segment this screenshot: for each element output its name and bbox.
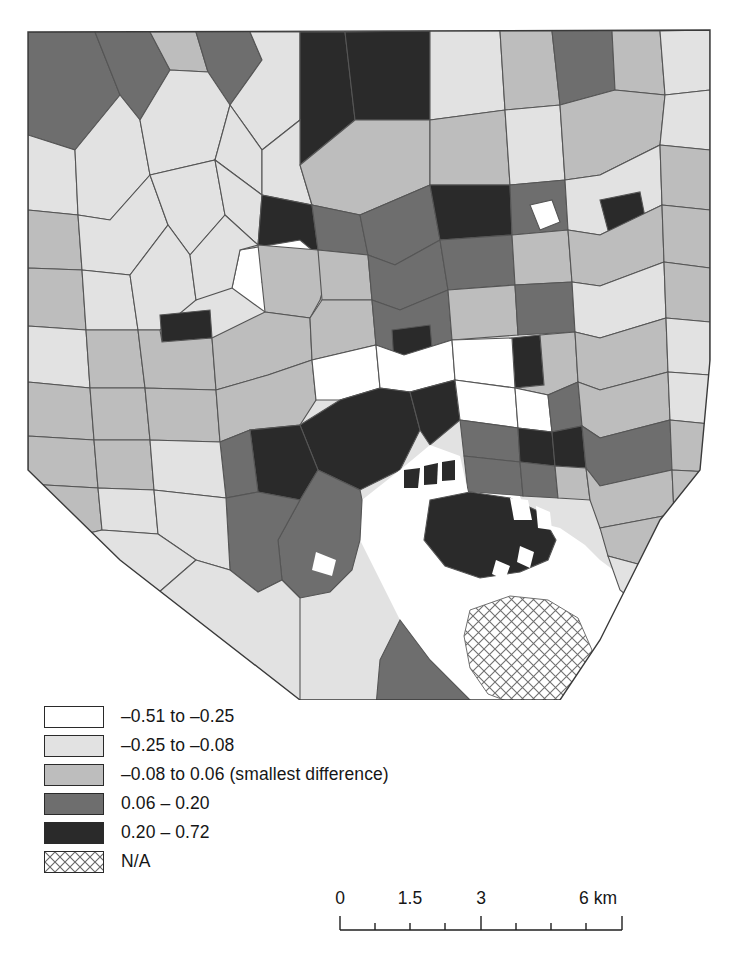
scale-label-0: 0 (335, 888, 345, 909)
legend-label-class-3: –0.08 to 0.06 (smallest difference) (121, 764, 389, 785)
legend-item: –0.08 to 0.06 (smallest difference) (44, 760, 344, 789)
legend-swatch-class-3 (44, 764, 104, 786)
legend-swatch-class-5 (44, 822, 104, 844)
legend-item: –0.51 to –0.25 (44, 702, 344, 731)
map-legend: –0.51 to –0.25 –0.25 to –0.08 –0.08 to 0… (44, 702, 344, 876)
map-canvas (0, 0, 740, 700)
map-graphic (0, 0, 740, 700)
legend-item: 0.20 – 0.72 (44, 818, 344, 847)
legend-label-class-na: N/A (121, 851, 150, 872)
figure-caption (60, 957, 700, 965)
legend-label-class-2: –0.25 to –0.08 (121, 735, 234, 756)
distance-scale-bar: 0 1.5 3 6 km (336, 888, 626, 934)
legend-swatch-class-2 (44, 735, 104, 757)
legend-swatch-class-1 (44, 706, 104, 728)
scale-label-6km: 6 km (579, 888, 617, 909)
scale-bar-graphic (336, 912, 626, 934)
scale-label-1-5: 1.5 (398, 888, 422, 909)
legend-item: 0.06 – 0.20 (44, 789, 344, 818)
figure-choropleth-map: –0.51 to –0.25 –0.25 to –0.08 –0.08 to 0… (0, 0, 740, 965)
legend-item: –0.25 to –0.08 (44, 731, 344, 760)
legend-swatch-class-na (44, 851, 104, 873)
legend-swatch-class-4 (44, 793, 104, 815)
legend-label-class-4: 0.06 – 0.20 (121, 793, 210, 814)
legend-label-class-5: 0.20 – 0.72 (121, 822, 210, 843)
scale-label-3: 3 (476, 888, 486, 909)
crosshatch-icon (45, 852, 103, 872)
legend-item: N/A (44, 847, 344, 876)
legend-label-class-1: –0.51 to –0.25 (121, 706, 234, 727)
scale-bar-labels: 0 1.5 3 6 km (336, 888, 626, 912)
